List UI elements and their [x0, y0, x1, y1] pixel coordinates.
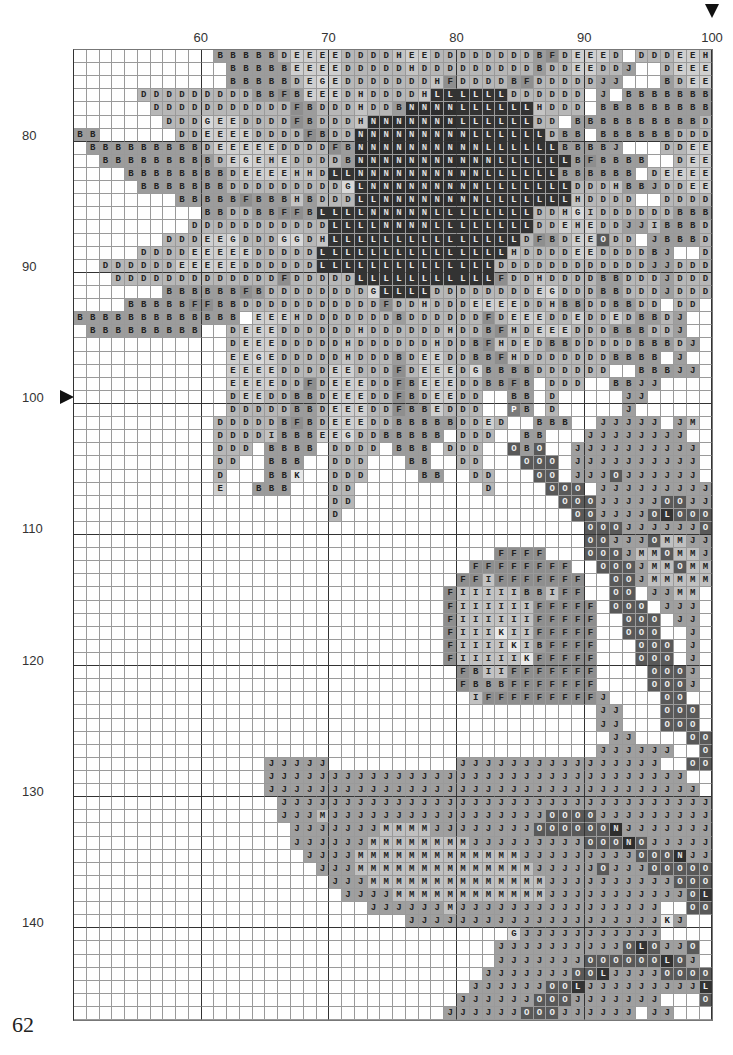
empty-cell — [227, 955, 240, 968]
empty-cell — [214, 705, 227, 718]
stitch-cell: D — [661, 194, 674, 207]
empty-cell — [368, 561, 381, 574]
empty-cell — [112, 889, 125, 902]
stitch-cell: D — [317, 181, 330, 194]
stitch-cell: J — [585, 1007, 598, 1020]
empty-cell — [189, 483, 202, 496]
stitch-cell: J — [597, 928, 610, 941]
stitch-cell: F — [457, 574, 470, 587]
empty-cell — [585, 705, 598, 718]
stitch-cell: J — [585, 902, 598, 915]
empty-cell — [700, 614, 713, 627]
stitch-cell: J — [610, 705, 623, 718]
empty-cell — [214, 404, 227, 417]
stitch-cell: M — [431, 863, 444, 876]
stitch-cell: E — [240, 391, 253, 404]
empty-cell — [74, 548, 87, 561]
empty-cell — [125, 955, 138, 968]
stitch-cell: J — [597, 692, 610, 705]
stitch-cell: D — [470, 325, 483, 338]
empty-cell — [125, 417, 138, 430]
stitch-cell: J — [610, 850, 623, 863]
empty-cell — [87, 837, 100, 850]
empty-cell — [700, 404, 713, 417]
stitch-cell: J — [597, 797, 610, 810]
stitch-cell: J — [610, 483, 623, 496]
empty-cell — [202, 601, 215, 614]
empty-cell — [317, 470, 330, 483]
empty-cell — [636, 234, 649, 247]
empty-cell — [125, 535, 138, 548]
stitch-cell: D — [534, 89, 547, 102]
stitch-cell: D — [355, 50, 368, 63]
empty-cell — [483, 732, 496, 745]
stitch-cell: B — [227, 312, 240, 325]
empty-cell — [419, 561, 432, 574]
empty-cell — [304, 640, 317, 653]
stitch-cell: N — [444, 102, 457, 115]
stitch-cell: D — [380, 76, 393, 89]
stitch-cell: J — [534, 955, 547, 968]
empty-cell — [253, 941, 266, 954]
stitch-cell: N — [431, 181, 444, 194]
empty-cell — [253, 745, 266, 758]
empty-cell — [355, 692, 368, 705]
stitch-cell: J — [419, 810, 432, 823]
empty-cell — [585, 89, 598, 102]
stitch-cell: D — [253, 273, 266, 286]
stitch-cell: H — [546, 299, 559, 312]
empty-cell — [214, 587, 227, 600]
stitch-cell: J — [559, 837, 572, 850]
empty-cell — [317, 456, 330, 469]
stitch-cell: D — [470, 378, 483, 391]
empty-cell — [431, 928, 444, 941]
stitch-cell: D — [291, 76, 304, 89]
empty-cell — [317, 732, 330, 745]
empty-cell — [151, 129, 164, 142]
empty-cell — [74, 719, 87, 732]
stitch-cell: D — [546, 63, 559, 76]
stitch-cell: N — [406, 207, 419, 220]
empty-cell — [189, 823, 202, 836]
stitch-cell: D — [559, 378, 572, 391]
stitch-cell: J — [674, 981, 687, 994]
stitch-cell: O — [636, 601, 649, 614]
stitch-cell: D — [444, 286, 457, 299]
stitch-cell: B — [406, 417, 419, 430]
empty-cell — [597, 640, 610, 653]
stitch-cell: L — [495, 142, 508, 155]
stitch-cell: F — [393, 404, 406, 417]
empty-cell — [214, 338, 227, 351]
stitch-cell: J — [534, 915, 547, 928]
empty-cell — [368, 522, 381, 535]
empty-cell — [495, 732, 508, 745]
stitch-cell: F — [457, 666, 470, 679]
empty-cell — [151, 522, 164, 535]
empty-cell — [202, 850, 215, 863]
stitch-cell: O — [687, 705, 700, 718]
empty-cell — [495, 928, 508, 941]
stitch-cell: J — [636, 378, 649, 391]
empty-cell — [265, 496, 278, 509]
empty-cell — [112, 378, 125, 391]
empty-cell — [661, 758, 674, 771]
empty-cell — [125, 902, 138, 915]
stitch-cell: B — [534, 640, 547, 653]
stitch-cell: O — [687, 509, 700, 522]
empty-cell — [176, 509, 189, 522]
empty-cell — [483, 509, 496, 522]
stitch-cell: M — [355, 850, 368, 863]
stitch-cell: J — [304, 850, 317, 863]
empty-cell — [189, 955, 202, 968]
empty-cell — [163, 483, 176, 496]
stitch-cell: B — [483, 325, 496, 338]
stitch-cell: D — [253, 234, 266, 247]
stitch-cell: J — [636, 522, 649, 535]
stitch-cell: J — [559, 863, 572, 876]
stitch-cell: H — [431, 338, 444, 351]
stitch-cell: E — [355, 404, 368, 417]
stitch-cell: O — [674, 509, 687, 522]
stitch-cell: J — [559, 758, 572, 771]
stitch-cell: L — [521, 129, 534, 142]
stitch-cell: J — [444, 810, 457, 823]
